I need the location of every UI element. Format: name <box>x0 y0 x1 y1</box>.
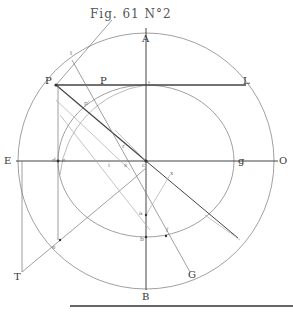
parallel-line-1 <box>56 100 130 170</box>
label-e-bottom: e <box>52 244 56 250</box>
label-e-top: e <box>62 157 66 163</box>
label-c: c <box>142 162 145 168</box>
bottom-rule <box>70 305 293 307</box>
line-t-G <box>72 60 190 272</box>
label-G: G <box>188 270 196 280</box>
diagonal-center-G <box>146 161 238 238</box>
label-E: E <box>4 156 11 166</box>
label-r: r <box>122 143 125 149</box>
label-d: d <box>52 157 56 163</box>
label-f: f <box>166 227 168 233</box>
label-a: a <box>139 210 143 216</box>
label-t-top: t <box>70 50 72 56</box>
label-x: x <box>170 170 173 176</box>
label-L: L <box>243 76 250 86</box>
label-O: O <box>279 156 287 166</box>
label-g: g <box>238 156 244 166</box>
label-t-axis: t <box>148 80 150 86</box>
line-ellipse-outer <box>205 215 240 240</box>
label-b: b <box>140 236 144 242</box>
parallel-line-2 <box>60 115 150 230</box>
label-B: B <box>142 292 149 302</box>
label-T: T <box>14 272 21 282</box>
label-i: i <box>108 162 110 168</box>
label-s: s <box>124 162 127 168</box>
label-P-left: P <box>45 76 52 86</box>
line-x-a <box>146 175 170 215</box>
label-p-prime: p' <box>84 100 90 106</box>
label-P-mid: P <box>100 76 107 86</box>
construction-drawing <box>0 0 293 313</box>
label-A: A <box>142 34 149 44</box>
line-T-diagonal-ext <box>130 168 146 182</box>
figure-title: Fig. 61 N°2 <box>90 8 172 20</box>
line-T-diagonal <box>22 182 130 272</box>
